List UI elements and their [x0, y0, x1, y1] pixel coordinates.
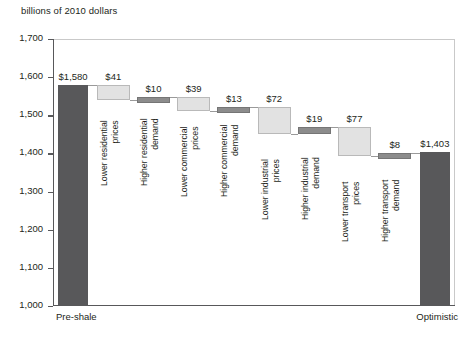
y-axis-tick-label: 1,400	[19, 146, 43, 157]
bar-value-label: $1,403	[395, 138, 466, 149]
y-axis-tick-label: 1,000	[19, 299, 43, 310]
step-connector	[331, 127, 338, 128]
step-connector	[210, 111, 217, 112]
bar-value-label: $72	[234, 93, 314, 104]
y-axis-tick: 1,000	[0, 306, 53, 307]
y-axis-tick: 1,400	[0, 153, 53, 154]
step-connector	[170, 97, 177, 98]
waterfall-chart: billions of 2010 dollars 1,0001,1001,200…	[0, 0, 466, 345]
y-axis-tick-label: 1,500	[19, 108, 43, 119]
total-bar	[420, 152, 450, 306]
bar-category-label: Higher residential demand	[139, 119, 160, 187]
bar-value-label: $41	[73, 71, 153, 82]
increase-bar	[217, 107, 250, 113]
x-axis-label-start: Pre-shale	[56, 311, 97, 322]
increase-bar	[137, 97, 170, 103]
bar-category-label: Higher industrial demand	[300, 157, 321, 220]
step-connector	[130, 100, 137, 101]
step-connector	[88, 85, 97, 86]
y-axis-tick-label: 1,700	[19, 32, 43, 43]
y-axis-tick: 1,100	[0, 268, 53, 269]
y-axis-tick-mark	[48, 39, 53, 40]
y-axis-tick-label: 1,200	[19, 223, 43, 234]
bar-value-label: $77	[315, 113, 395, 124]
y-axis-tick-mark	[48, 268, 53, 269]
x-axis-label-end: Optimistic	[416, 311, 458, 322]
y-axis-tick-label: 1,100	[19, 261, 43, 272]
y-axis-tick: 1,500	[0, 115, 53, 116]
y-axis-tick: 1,200	[0, 230, 53, 231]
bar-category-label: Higher transport demand	[380, 180, 401, 242]
y-axis-tick: 1,700	[0, 39, 53, 40]
bar-category-label: Lower industrial prices	[260, 159, 281, 220]
increase-bar	[298, 127, 331, 134]
bar-category-label: Higher commercial demand	[219, 125, 240, 197]
step-connector	[250, 107, 257, 108]
step-connector	[291, 134, 298, 135]
y-axis-tick-label: 1,300	[19, 185, 43, 196]
y-axis-tick-mark	[48, 306, 53, 307]
y-axis-tick-mark	[48, 153, 53, 154]
step-connector	[411, 153, 420, 154]
bar-category-label: Lower transport prices	[340, 182, 361, 242]
y-axis-tick-mark	[48, 230, 53, 231]
step-connector	[371, 156, 378, 157]
bar-category-label: Lower commercial prices	[179, 127, 200, 197]
y-axis-unit-label: billions of 2010 dollars	[21, 5, 117, 16]
y-axis-tick: 1,300	[0, 192, 53, 193]
y-axis-tick-mark	[48, 115, 53, 116]
total-bar	[58, 85, 88, 306]
bar-category-label: Lower residential prices	[99, 121, 120, 187]
increase-bar	[378, 153, 411, 159]
y-axis-tick-mark	[48, 192, 53, 193]
